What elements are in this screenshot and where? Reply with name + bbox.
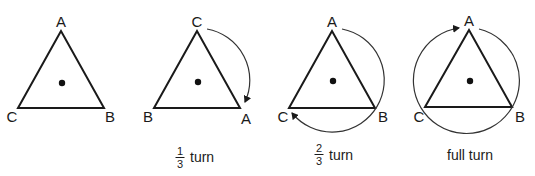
rotation-arrow-icon xyxy=(292,29,384,132)
vertex-label-left: C xyxy=(278,108,289,125)
caption-denominator: 3 xyxy=(177,158,183,170)
centre-dot xyxy=(59,80,65,86)
vertex-label-top: C xyxy=(192,13,203,30)
centre-dot xyxy=(330,78,336,84)
rotation-arrow-icon xyxy=(207,29,250,102)
vertex-label-right: B xyxy=(515,108,525,125)
vertex-label-right: B xyxy=(378,108,388,125)
panel-one-third-turn: C B A 1 3 turn xyxy=(143,13,251,170)
vertex-label-right: A xyxy=(241,110,251,127)
panel-original: A C B xyxy=(7,13,115,125)
caption-word: turn xyxy=(190,149,214,165)
caption-numerator: 1 xyxy=(177,145,183,157)
triangle xyxy=(154,31,240,108)
caption-numerator: 2 xyxy=(316,142,322,154)
triangle xyxy=(18,31,104,108)
triangle xyxy=(289,31,375,108)
vertex-label-left: B xyxy=(143,108,153,125)
caption-one-third-turn: 1 3 turn xyxy=(176,145,215,170)
vertex-label-top: A xyxy=(56,13,66,30)
panel-two-thirds-turn: A C B 2 3 turn xyxy=(278,13,388,167)
centre-dot xyxy=(195,79,201,85)
caption-denominator: 3 xyxy=(316,155,322,167)
rotation-arrow-icon xyxy=(413,28,519,133)
centre-dot xyxy=(467,78,473,84)
panel-full-turn: A C B full turn xyxy=(413,12,525,163)
caption-full-turn: full turn xyxy=(447,147,493,163)
vertex-label-right: B xyxy=(105,108,115,125)
triangle xyxy=(425,30,512,107)
vertex-label-left: C xyxy=(7,108,18,125)
caption-two-thirds-turn: 2 3 turn xyxy=(315,142,354,167)
vertex-label-left: C xyxy=(414,108,425,125)
caption-word: turn xyxy=(329,147,353,163)
vertex-label-top: A xyxy=(464,12,474,29)
rotation-diagram: A C B C B A 1 3 turn A C B 2 3 turn xyxy=(0,0,535,176)
vertex-label-top: A xyxy=(327,13,337,30)
